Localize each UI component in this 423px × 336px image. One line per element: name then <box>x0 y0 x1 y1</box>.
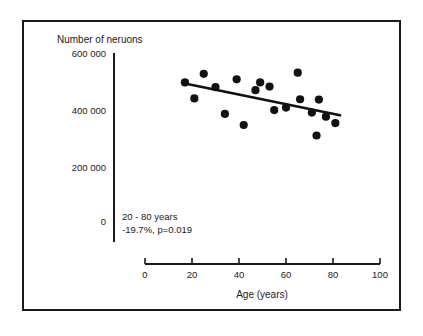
y-tick-label-600000: 600 000 <box>72 48 106 59</box>
data-point <box>181 78 189 86</box>
data-point <box>312 131 320 139</box>
annotation-age-range: 20 - 80 years <box>122 211 178 222</box>
x-tick-label-100: 100 <box>372 269 388 280</box>
data-points-group <box>181 69 340 140</box>
data-point <box>270 106 278 114</box>
data-point <box>294 69 302 77</box>
data-point <box>282 103 290 111</box>
data-point <box>315 95 323 103</box>
x-tick-label-80: 80 <box>328 269 339 280</box>
y-axis-title: Number of neruons <box>57 34 143 45</box>
data-point <box>211 83 219 91</box>
data-point <box>240 121 248 129</box>
y-tick-label-200000: 200 000 <box>72 162 106 173</box>
x-tick-label-20: 20 <box>187 269 198 280</box>
data-point <box>190 94 198 102</box>
annotation-stats: -19.7%, p=0.019 <box>122 224 192 235</box>
data-point <box>233 75 241 83</box>
data-point <box>251 86 259 94</box>
x-tick-label-40: 40 <box>234 269 245 280</box>
data-point <box>296 95 304 103</box>
data-point <box>331 119 339 127</box>
scatter-plot: Number of neruons 600 000 400 000 200 00… <box>24 22 399 309</box>
data-point <box>200 70 208 78</box>
x-axis-title: Age (years) <box>236 289 288 300</box>
data-point <box>221 110 229 118</box>
data-point <box>265 82 273 90</box>
x-tick-label-60: 60 <box>281 269 292 280</box>
data-point <box>256 78 264 86</box>
data-point <box>308 108 316 116</box>
data-point <box>322 113 330 121</box>
figure-frame: Number of neruons 600 000 400 000 200 00… <box>22 20 401 311</box>
x-tick-label-0: 0 <box>142 269 147 280</box>
y-tick-label-400000: 400 000 <box>72 105 106 116</box>
y-tick-label-0: 0 <box>101 216 106 227</box>
